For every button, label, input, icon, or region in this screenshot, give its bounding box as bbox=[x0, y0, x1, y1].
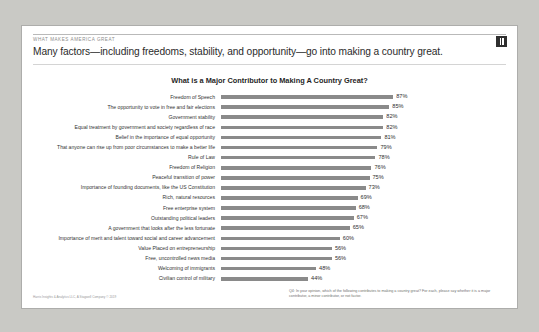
bar-track: 65% bbox=[221, 223, 517, 233]
logo-glyph bbox=[500, 38, 504, 45]
category-label: Freedom of Religion bbox=[22, 165, 221, 170]
bar bbox=[221, 237, 340, 241]
bar bbox=[221, 156, 375, 160]
chart-row: Peaceful transition of power75% bbox=[22, 173, 517, 183]
bar-value-label: 82% bbox=[386, 114, 397, 120]
bar bbox=[221, 267, 316, 271]
bar-track: 82% bbox=[221, 122, 517, 132]
chart-row: A government that looks after the less f… bbox=[22, 223, 517, 233]
chart-row: Belief in the importance of equal opport… bbox=[22, 132, 517, 142]
bar-track: 79% bbox=[221, 142, 517, 152]
bar bbox=[221, 146, 377, 150]
chart-row: Freedom of Religion76% bbox=[22, 163, 517, 173]
chart-row: Outstanding political leaders67% bbox=[22, 213, 517, 223]
category-label: Freedom of Speech bbox=[22, 95, 221, 100]
bar-track: 68% bbox=[221, 203, 517, 213]
chart-row: Value Placed on entrepreneurship56% bbox=[22, 243, 517, 253]
bar-value-label: 48% bbox=[319, 266, 330, 272]
category-label: Government stability bbox=[22, 115, 221, 120]
bar-track: 60% bbox=[221, 233, 517, 243]
category-label: Free enterprise system bbox=[22, 206, 221, 211]
category-label: Belief in the importance of equal opport… bbox=[22, 135, 221, 140]
bar-track: 81% bbox=[221, 132, 517, 142]
bar-track: 69% bbox=[221, 193, 517, 203]
slide-headline: Many factors—including freedoms, stabili… bbox=[33, 46, 443, 57]
bar-value-label: 68% bbox=[359, 205, 370, 211]
bar-track: 87% bbox=[221, 92, 517, 102]
category-label: Welcoming of immigrants bbox=[22, 266, 221, 271]
category-label: Rule of Law bbox=[22, 155, 221, 160]
bar bbox=[221, 176, 370, 180]
bar-value-label: 82% bbox=[386, 125, 397, 131]
bar-track: 75% bbox=[221, 173, 517, 183]
bar bbox=[221, 186, 366, 190]
bar bbox=[221, 226, 350, 230]
chart-row: Importance of founding documents, like t… bbox=[22, 183, 517, 193]
category-label: The opportunity to vote in free and fair… bbox=[22, 105, 221, 110]
bar bbox=[221, 206, 356, 210]
bar-value-label: 65% bbox=[353, 225, 364, 231]
bar-value-label: 81% bbox=[384, 135, 395, 141]
bar bbox=[221, 105, 389, 109]
category-label: Civilian control of military bbox=[22, 276, 221, 281]
bar bbox=[221, 136, 381, 140]
bar-track: 78% bbox=[221, 153, 517, 163]
slide-kicker: WHAT MAKES AMERICA GREAT bbox=[33, 37, 115, 42]
bar-value-label: 56% bbox=[335, 246, 346, 252]
bar-track: 82% bbox=[221, 112, 517, 122]
category-label: Peaceful transition of power bbox=[22, 175, 221, 180]
category-label: Importance of founding documents, like t… bbox=[22, 185, 221, 190]
chart-row: Free enterprise system68% bbox=[22, 203, 517, 213]
category-label: Equal treatment by government and societ… bbox=[22, 125, 221, 130]
bar-value-label: 67% bbox=[357, 215, 368, 221]
chart-row: Government stability82% bbox=[22, 112, 517, 122]
slide-card: WHAT MAKES AMERICA GREAT Many factors—in… bbox=[22, 26, 517, 308]
category-label: A government that looks after the less f… bbox=[22, 226, 221, 231]
bar-value-label: 78% bbox=[378, 155, 389, 161]
publisher-logo-icon bbox=[496, 36, 507, 47]
chart-row: Free, uncontrolled news media56% bbox=[22, 254, 517, 264]
slide-header: WHAT MAKES AMERICA GREAT Many factors—in… bbox=[22, 26, 517, 66]
bar-value-label: 75% bbox=[373, 175, 384, 181]
category-label: Importance of merit and talent toward so… bbox=[22, 236, 221, 241]
bar-chart: Freedom of Speech87%The opportunity to v… bbox=[22, 92, 517, 284]
chart-row: Civilian control of military44% bbox=[22, 274, 517, 284]
category-label: Value Placed on entrepreneurship bbox=[22, 246, 221, 251]
source-credit: Harris Insights & Analytics LLC, A Stagw… bbox=[33, 295, 116, 299]
bar-track: 67% bbox=[221, 213, 517, 223]
bar-track: 44% bbox=[221, 274, 517, 284]
category-label: That anyone can rise up from poor circum… bbox=[22, 145, 221, 150]
chart-row: Freedom of Speech87% bbox=[22, 92, 517, 102]
bar bbox=[221, 277, 308, 281]
category-label: Outstanding political leaders bbox=[22, 216, 221, 221]
header-top-rule bbox=[33, 34, 506, 35]
header-bottom-rule bbox=[33, 64, 506, 65]
category-label: Rich, natural resources bbox=[22, 195, 221, 200]
category-label: Free, uncontrolled news media bbox=[22, 256, 221, 261]
bar-track: 56% bbox=[221, 254, 517, 264]
bar bbox=[221, 216, 354, 220]
bar-value-label: 44% bbox=[311, 276, 322, 282]
bar-value-label: 85% bbox=[392, 104, 403, 110]
chart-row: Rich, natural resources69% bbox=[22, 193, 517, 203]
chart-row: The opportunity to vote in free and fair… bbox=[22, 102, 517, 112]
slide-canvas: WHAT MAKES AMERICA GREAT Many factors—in… bbox=[0, 0, 539, 332]
bar bbox=[221, 166, 371, 170]
bar-value-label: 79% bbox=[380, 145, 391, 151]
bar bbox=[221, 115, 383, 119]
bar bbox=[221, 126, 383, 130]
bar bbox=[221, 247, 332, 251]
bar-track: 56% bbox=[221, 243, 517, 253]
bar-value-label: 76% bbox=[374, 165, 385, 171]
chart-row: Rule of Law78% bbox=[22, 153, 517, 163]
bar bbox=[221, 257, 332, 261]
chart-row: Importance of merit and talent toward so… bbox=[22, 233, 517, 243]
bar-value-label: 60% bbox=[343, 236, 354, 242]
bar-track: 76% bbox=[221, 163, 517, 173]
chart-row: Welcoming of immigrants48% bbox=[22, 264, 517, 274]
chart-row: Equal treatment by government and societ… bbox=[22, 122, 517, 132]
chart-row: That anyone can rise up from poor circum… bbox=[22, 142, 517, 152]
bar-value-label: 56% bbox=[335, 256, 346, 262]
bar-value-label: 69% bbox=[361, 195, 372, 201]
bar bbox=[221, 95, 393, 99]
